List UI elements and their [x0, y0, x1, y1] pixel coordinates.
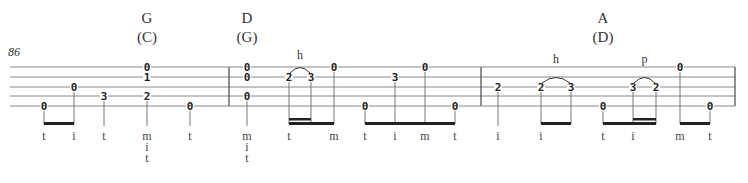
picking-finger: t	[453, 129, 457, 143]
fret-number: 0	[41, 100, 48, 113]
fret-number: 0	[600, 100, 607, 113]
capo-chord-name: (G)	[237, 29, 258, 46]
picking-finger: t	[245, 151, 249, 165]
fret-number: 0	[452, 100, 459, 113]
picking-finger: t	[363, 129, 367, 143]
picking-finger: m	[675, 129, 685, 143]
beam-secondary	[289, 118, 311, 121]
picking-finger: t	[287, 129, 291, 143]
picking-finger: i	[539, 129, 543, 143]
fret-number: 3	[630, 81, 637, 94]
picking-finger: t	[145, 151, 149, 165]
picking-finger: t	[188, 129, 192, 143]
fret-number: 2	[495, 81, 502, 94]
measure-number: 86	[8, 45, 20, 59]
picking-finger: t	[42, 129, 46, 143]
fret-number: 2	[538, 81, 545, 94]
picking-finger: t	[708, 129, 712, 143]
capo-chord-name: (C)	[137, 29, 157, 46]
fret-number: 3	[308, 71, 315, 84]
fret-number: 0	[244, 90, 251, 103]
beam	[44, 122, 74, 125]
picking-finger: m	[329, 129, 339, 143]
fret-number: 0	[677, 61, 684, 74]
fret-number: 3	[101, 90, 108, 103]
chord-name: A	[598, 10, 609, 26]
picking-finger: t	[102, 129, 106, 143]
picking-finger: t	[601, 129, 605, 143]
beam-secondary	[633, 118, 656, 121]
technique-label: p	[642, 52, 648, 66]
fret-number: 0	[707, 100, 714, 113]
capo-chord-name: (D)	[593, 29, 614, 46]
fret-number: 0	[187, 100, 194, 113]
beam	[365, 122, 455, 125]
beam	[680, 122, 710, 125]
picking-finger: i	[496, 129, 500, 143]
beam	[541, 122, 571, 125]
picking-finger: i	[393, 129, 397, 143]
picking-finger: i	[631, 129, 635, 143]
picking-finger: m	[420, 129, 430, 143]
fret-number: 0	[362, 100, 369, 113]
fret-number: 3	[568, 81, 575, 94]
fret-number: 1	[144, 71, 151, 84]
technique-label: h	[297, 48, 303, 62]
technique-label: h	[553, 52, 559, 66]
beam	[289, 122, 334, 125]
chord-name: D	[242, 10, 253, 26]
beam	[603, 122, 656, 125]
fret-number: 2	[286, 71, 293, 84]
fret-number: 0	[244, 71, 251, 84]
fret-number: 2	[653, 81, 660, 94]
fret-number: 0	[331, 61, 338, 74]
fret-number: 0	[422, 61, 429, 74]
fret-number: 3	[392, 71, 399, 84]
fret-number: 2	[144, 90, 151, 103]
fret-number: 0	[71, 81, 78, 94]
picking-finger: i	[72, 129, 76, 143]
slur-arc	[542, 78, 570, 84]
tablature-staff: 86G(C)D(G)A(D)0t0i3t012mit0t000mit2t30m0…	[0, 0, 748, 183]
chord-name: G	[142, 10, 153, 26]
